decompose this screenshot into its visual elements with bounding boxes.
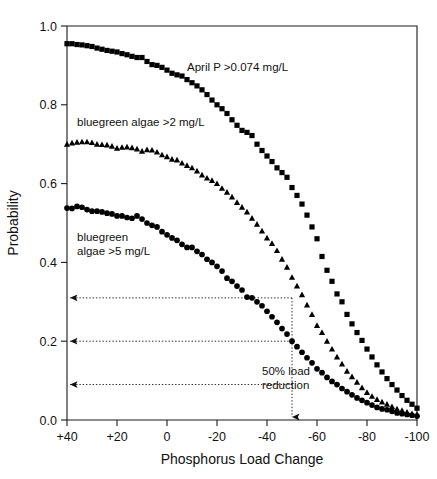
data-point bbox=[214, 102, 219, 107]
data-point bbox=[224, 275, 230, 281]
data-point bbox=[299, 292, 305, 298]
data-point bbox=[369, 393, 375, 399]
y-tick-label: 0.8 bbox=[40, 98, 57, 112]
data-point bbox=[134, 213, 140, 219]
data-point bbox=[329, 279, 334, 284]
data-point bbox=[214, 263, 220, 269]
data-point bbox=[269, 159, 274, 164]
y-axis-ticks: 0.00.20.40.60.81.0 bbox=[40, 20, 67, 428]
data-point bbox=[174, 237, 180, 243]
data-point bbox=[114, 213, 120, 219]
data-point bbox=[229, 117, 234, 122]
data-point bbox=[314, 236, 319, 241]
data-point bbox=[79, 139, 85, 145]
data-point bbox=[194, 168, 200, 174]
data-point bbox=[179, 241, 185, 247]
data-point bbox=[304, 302, 310, 308]
data-point bbox=[379, 406, 385, 412]
data-point bbox=[109, 49, 114, 54]
x-tick-label: 0 bbox=[164, 430, 171, 444]
data-point bbox=[409, 402, 414, 407]
data-point bbox=[294, 193, 299, 198]
data-point bbox=[244, 294, 250, 300]
data-point bbox=[394, 387, 399, 392]
data-point bbox=[199, 252, 205, 258]
data-point bbox=[219, 106, 224, 111]
data-point bbox=[164, 232, 170, 238]
data-point bbox=[109, 143, 115, 149]
data-point bbox=[199, 172, 205, 178]
data-point bbox=[374, 396, 380, 402]
data-point bbox=[164, 154, 170, 160]
data-point bbox=[249, 295, 255, 301]
data-point bbox=[234, 199, 240, 205]
load-reduction-annotation: 50% load reduction bbox=[262, 365, 310, 391]
data-point bbox=[179, 73, 184, 78]
y-tick-label: 0.6 bbox=[40, 177, 57, 191]
series-label-april-p: April P >0.074 mg/L bbox=[187, 61, 289, 73]
data-point bbox=[94, 45, 99, 50]
data-point bbox=[359, 397, 365, 403]
data-point bbox=[309, 360, 315, 366]
data-point bbox=[274, 165, 279, 170]
x-axis-title: Phosphorus Load Change bbox=[161, 451, 324, 467]
data-point bbox=[79, 42, 84, 47]
data-point bbox=[339, 361, 345, 367]
data-point bbox=[299, 349, 305, 355]
data-point bbox=[209, 260, 215, 266]
data-point bbox=[69, 206, 75, 212]
data-point bbox=[89, 139, 95, 145]
data-point bbox=[294, 283, 300, 289]
data-point bbox=[259, 228, 265, 234]
data-point bbox=[184, 245, 190, 251]
data-point bbox=[384, 376, 389, 381]
data-point bbox=[254, 142, 259, 147]
data-point bbox=[169, 235, 175, 241]
data-point bbox=[139, 55, 144, 60]
data-point bbox=[134, 146, 140, 152]
data-point bbox=[354, 379, 360, 385]
data-point bbox=[389, 382, 394, 387]
data-point bbox=[254, 221, 260, 227]
data-point bbox=[289, 338, 295, 344]
data-point bbox=[84, 43, 89, 48]
data-point bbox=[324, 338, 330, 344]
data-point bbox=[174, 157, 180, 163]
data-point bbox=[289, 185, 294, 190]
data-point bbox=[74, 204, 80, 210]
data-point bbox=[269, 240, 275, 246]
y-tick-label: 0.2 bbox=[40, 335, 57, 349]
data-point bbox=[404, 412, 410, 418]
data-point bbox=[69, 41, 74, 46]
data-point bbox=[279, 256, 285, 262]
data-point bbox=[404, 398, 409, 403]
data-point bbox=[194, 249, 200, 255]
data-point bbox=[154, 224, 160, 230]
data-point bbox=[284, 175, 289, 180]
data-point bbox=[104, 48, 109, 53]
data-point bbox=[304, 213, 309, 218]
data-point bbox=[99, 47, 104, 52]
plot-frame bbox=[67, 26, 417, 420]
data-point bbox=[144, 59, 149, 64]
data-point bbox=[279, 170, 284, 175]
data-point bbox=[239, 128, 244, 133]
data-point bbox=[84, 139, 90, 145]
x-tick-label: +40 bbox=[56, 430, 77, 444]
data-point bbox=[374, 362, 379, 367]
data-point bbox=[149, 223, 155, 229]
data-point bbox=[309, 224, 314, 229]
data-point bbox=[89, 44, 94, 49]
x-tick-label: -80 bbox=[358, 430, 376, 444]
chart-figure: 0.00.20.40.60.81.0 +40+200-20-40-60-80-1… bbox=[0, 0, 437, 479]
data-point bbox=[94, 141, 100, 147]
data-point bbox=[249, 215, 255, 221]
data-point bbox=[124, 52, 129, 57]
data-point bbox=[229, 278, 235, 284]
data-point bbox=[329, 379, 335, 385]
y-tick-label: 1.0 bbox=[40, 20, 57, 34]
data-point bbox=[64, 41, 69, 46]
data-point bbox=[144, 147, 150, 153]
data-point bbox=[119, 213, 125, 219]
load-reduction-line2: reduction bbox=[262, 379, 309, 391]
